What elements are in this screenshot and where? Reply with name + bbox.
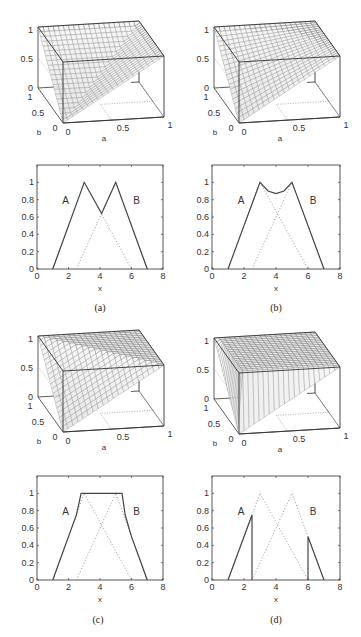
b-tick-label: 0.5 — [32, 417, 45, 427]
x-tick-label: 4 — [97, 582, 102, 592]
y-tick-label: 0.8 — [196, 506, 209, 516]
y-tick-label: 0.8 — [21, 195, 34, 205]
x-tick-label: 0 — [209, 582, 214, 592]
caption-c: (c) — [92, 614, 103, 626]
figure: 10.5010.50b00.51a10.5010.50b00.51a10.501… — [0, 0, 361, 637]
y-tick-label: 0.6 — [196, 523, 209, 533]
b-tick-label: 0 — [228, 434, 233, 444]
x-tick-label: 2 — [66, 271, 71, 281]
b-axis-label: b — [213, 128, 218, 137]
a-tick-label: 1 — [343, 120, 348, 130]
z-tick-label: 1 — [28, 334, 33, 344]
y-tick-label: 0.8 — [196, 195, 209, 205]
x-tick-label: 8 — [337, 271, 342, 281]
line-plot-d: 0246800.20.40.60.81xAB — [196, 476, 342, 604]
b-tick-label: 1 — [27, 92, 32, 102]
x-tick-label: 0 — [34, 582, 39, 592]
y-tick-label: 0.4 — [196, 540, 209, 550]
a-tick-label: 0.5 — [293, 434, 306, 444]
caption-a: (a) — [94, 302, 105, 314]
surface-plot-d: 10.5010.50b00.51a — [196, 332, 348, 454]
x-axis-label: x — [274, 284, 278, 293]
b-tick-label: 0 — [52, 432, 57, 442]
x-axis-label: x — [98, 595, 102, 604]
a-tick-label: 1 — [167, 120, 172, 130]
b-tick-label: 0 — [52, 123, 57, 133]
x-tick-label: 8 — [337, 582, 342, 592]
caption-d: (d) — [270, 614, 282, 626]
b-tick-label: 1 — [27, 401, 32, 411]
surface-plot-c: 10.5010.50b00.51a — [20, 330, 172, 452]
y-tick-label: 0.2 — [21, 558, 34, 568]
label-A: A — [238, 506, 245, 517]
x-tick-label: 6 — [305, 582, 310, 592]
y-tick-label: 0 — [204, 575, 209, 585]
x-axis-label: x — [274, 595, 278, 604]
a-tick-label: 0 — [241, 438, 246, 448]
label-A: A — [62, 195, 69, 206]
y-tick-label: 0.4 — [21, 229, 34, 239]
y-tick-label: 1 — [29, 177, 34, 187]
z-tick-label: 1 — [28, 25, 33, 35]
b-tick-label: 1 — [203, 403, 208, 413]
a-axis-label: a — [102, 134, 107, 143]
b-axis-label: b — [37, 128, 42, 137]
x-tick-label: 8 — [160, 271, 165, 281]
b-tick-label: 0 — [228, 123, 233, 133]
a-tick-label: 0.5 — [117, 432, 130, 442]
z-tick-label: 0.5 — [196, 365, 209, 375]
y-tick-label: 0 — [204, 264, 209, 274]
label-A: A — [62, 506, 69, 517]
y-tick-label: 1 — [204, 177, 209, 187]
x-tick-label: 2 — [241, 582, 246, 592]
b-tick-label: 1 — [203, 92, 208, 102]
a-tick-label: 0 — [65, 127, 70, 137]
y-tick-label: 0 — [29, 575, 34, 585]
y-tick-label: 0.2 — [196, 558, 209, 568]
y-tick-label: 0.6 — [21, 523, 34, 533]
y-tick-label: 0.6 — [196, 212, 209, 222]
y-tick-label: 1 — [204, 488, 209, 498]
surface-plot-a: 10.5010.50b00.51a — [20, 21, 172, 143]
line-plot-a: 0246800.20.40.60.81xAB — [21, 165, 165, 293]
z-tick-label: 0.5 — [196, 54, 209, 64]
z-tick-label: 0.5 — [20, 54, 33, 64]
label-B: B — [310, 506, 317, 517]
y-tick-label: 0 — [29, 264, 34, 274]
x-tick-label: 6 — [305, 271, 310, 281]
b-tick-label: 0.5 — [32, 108, 45, 118]
label-A: A — [238, 195, 245, 206]
y-tick-label: 0.8 — [21, 506, 34, 516]
x-axis-label: x — [98, 284, 102, 293]
caption-b: (b) — [270, 302, 282, 314]
series-union-right — [308, 537, 324, 580]
y-tick-label: 1 — [29, 488, 34, 498]
series-union-left — [228, 515, 252, 580]
x-tick-label: 4 — [273, 582, 278, 592]
label-B: B — [133, 506, 140, 517]
a-axis-label: a — [102, 443, 107, 452]
b-tick-label: 0.5 — [208, 108, 221, 118]
a-tick-label: 0 — [65, 436, 70, 446]
x-tick-label: 0 — [34, 271, 39, 281]
b-axis-label: b — [37, 437, 42, 446]
a-tick-label: 0 — [241, 127, 246, 137]
x-tick-label: 4 — [273, 271, 278, 281]
x-tick-label: 2 — [241, 271, 246, 281]
label-B: B — [310, 195, 317, 206]
y-tick-label: 0.4 — [21, 540, 34, 550]
z-tick-label: 1 — [204, 25, 209, 35]
y-tick-label: 0.2 — [196, 247, 209, 257]
surface-plot-b: 10.5010.50b00.51a — [196, 21, 348, 143]
y-tick-label: 0.6 — [21, 212, 34, 222]
label-B: B — [133, 195, 140, 206]
b-axis-label: b — [213, 439, 218, 448]
x-tick-label: 2 — [66, 582, 71, 592]
x-tick-label: 0 — [209, 271, 214, 281]
a-axis-label: a — [278, 134, 283, 143]
x-tick-label: 4 — [97, 271, 102, 281]
a-tick-label: 0.5 — [293, 123, 306, 133]
line-plot-c: 0246800.20.40.60.81xAB — [21, 476, 165, 604]
x-tick-label: 6 — [129, 271, 134, 281]
a-tick-label: 0.5 — [117, 123, 130, 133]
